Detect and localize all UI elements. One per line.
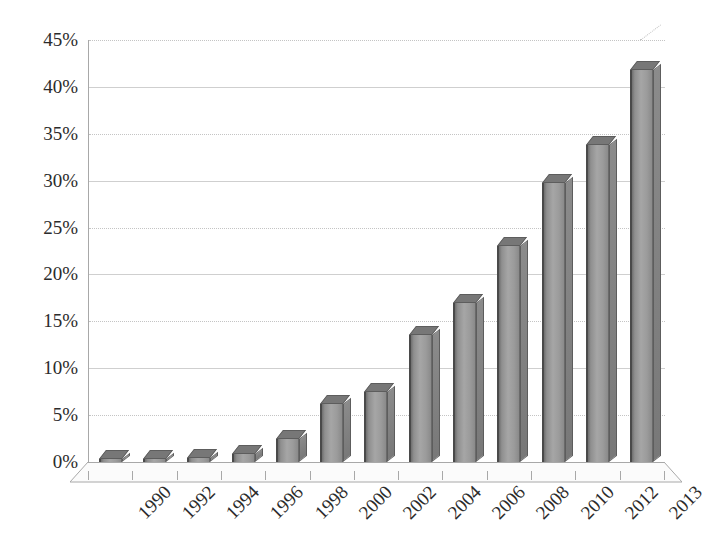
x-axis-tick-label: 2013 <box>665 482 706 523</box>
x-axis-tick-label: 1992 <box>178 482 219 523</box>
x-axis-tick-label: 1994 <box>222 482 263 523</box>
bar-side-face <box>432 329 440 462</box>
bars-group <box>88 40 664 462</box>
bar[interactable] <box>232 454 255 462</box>
y-axis-tick-label: 40% <box>14 77 78 96</box>
y-axis-tick-label: 20% <box>14 264 78 283</box>
x-axis-tick-mark <box>177 471 178 480</box>
x-axis-tick-label: 1998 <box>311 482 352 523</box>
y-axis-tick-label: 35% <box>14 124 78 143</box>
bar[interactable] <box>276 439 299 462</box>
x-axis-tick-label: 1996 <box>266 482 307 523</box>
bar-front-face <box>320 404 343 462</box>
bar-slot <box>542 40 565 462</box>
x-axis-tick-mark <box>442 471 443 480</box>
x-axis-tick-label: 2012 <box>621 482 662 523</box>
bar[interactable] <box>364 392 387 462</box>
x-axis-tick-mark <box>487 471 488 480</box>
bar[interactable] <box>320 404 343 462</box>
x-axis-tick-mark <box>575 471 576 480</box>
bar[interactable] <box>453 303 476 462</box>
bar-slot <box>232 40 255 462</box>
bar-slot <box>409 40 432 462</box>
bar-front-face <box>586 145 609 462</box>
y-axis-tick-label: 10% <box>14 358 78 377</box>
x-axis-labels: 1990199219941996199820002002200420062008… <box>88 482 664 552</box>
bar-slot <box>99 40 122 462</box>
bar-side-face <box>609 139 617 462</box>
y-axis-tick-label: 5% <box>14 405 78 424</box>
bar-front-face <box>453 303 476 462</box>
bar[interactable] <box>497 246 520 462</box>
bar[interactable] <box>409 335 432 462</box>
bar-front-face <box>630 70 653 462</box>
bar-front-face <box>497 246 520 462</box>
y-axis-tick-label: 25% <box>14 218 78 237</box>
bar-slot <box>453 40 476 462</box>
y-axis-labels: 0%5%10%15%20%25%30%35%40%45% <box>10 0 78 553</box>
bar-slot <box>630 40 653 462</box>
y-axis-tick-label: 30% <box>14 171 78 190</box>
x-axis-tick-label: 2008 <box>532 482 573 523</box>
y-axis-tick-label: 15% <box>14 311 78 330</box>
bar[interactable] <box>542 183 565 462</box>
x-axis-tick-mark <box>354 471 355 480</box>
x-axis-tick-label: 2006 <box>488 482 529 523</box>
x-axis-tick-mark <box>132 471 133 480</box>
bar-slot <box>320 40 343 462</box>
bar-slot <box>586 40 609 462</box>
bar-front-face <box>409 335 432 462</box>
x-axis-tick-mark <box>664 471 665 480</box>
bar-slot <box>364 40 387 462</box>
bar-front-face <box>232 454 255 462</box>
x-axis-tick-mark <box>310 471 311 480</box>
bar-side-face <box>565 176 573 462</box>
x-axis-tick-label: 2010 <box>577 482 618 523</box>
y-axis-tick-label: 45% <box>14 30 78 49</box>
x-axis-tick-mark <box>398 471 399 480</box>
x-axis-tick-marks <box>88 471 664 481</box>
x-axis-tick-mark <box>620 471 621 480</box>
x-axis-tick-label: 2002 <box>399 482 440 523</box>
bar-slot <box>187 40 210 462</box>
bar[interactable] <box>586 145 609 462</box>
bar-front-face <box>276 439 299 462</box>
bar-slot <box>497 40 520 462</box>
gridline-depth-stub <box>640 24 661 40</box>
bar-side-face <box>343 398 351 462</box>
bar-side-face <box>653 64 661 462</box>
bar-front-face <box>364 392 387 462</box>
bar-slot <box>276 40 299 462</box>
x-axis-tick-mark <box>531 471 532 480</box>
bar-side-face <box>476 296 484 462</box>
bar-side-face <box>387 385 395 462</box>
x-axis-tick-mark <box>265 471 266 480</box>
x-axis-tick-label: 2000 <box>355 482 396 523</box>
bar[interactable] <box>630 70 653 462</box>
x-axis-tick-mark <box>221 471 222 480</box>
bar-side-face <box>520 240 528 462</box>
x-axis-line <box>88 462 664 463</box>
x-axis-tick-label: 1990 <box>134 482 175 523</box>
y-axis-tick-label: 0% <box>14 452 78 471</box>
x-axis-tick-label: 2004 <box>444 482 485 523</box>
x-axis-tick-mark <box>88 471 89 480</box>
bar-front-face <box>542 183 565 462</box>
bar-slot <box>143 40 166 462</box>
